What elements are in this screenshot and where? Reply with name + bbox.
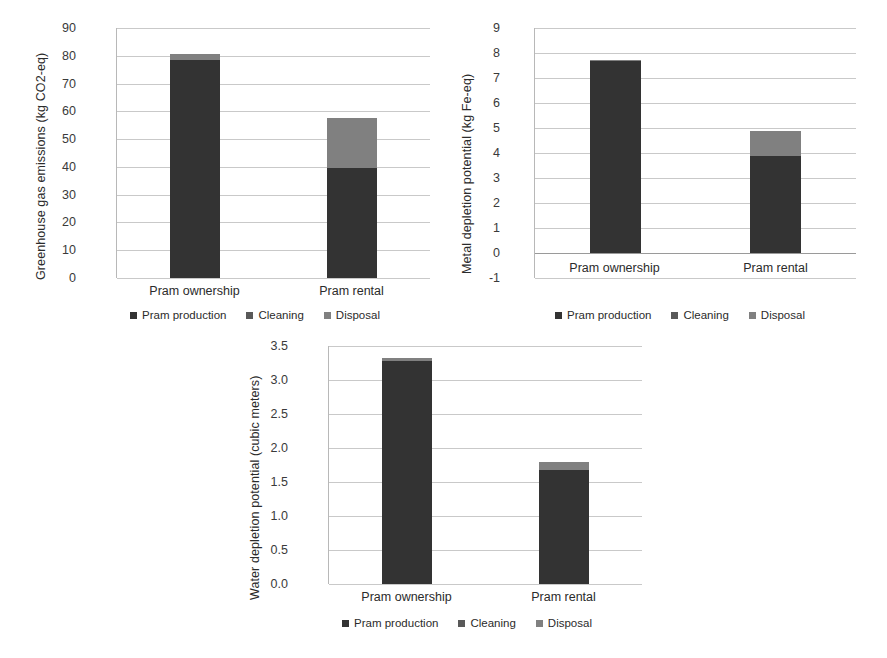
plot-area-ghg: 0102030405060708090 (80, 28, 430, 278)
legend-swatch-icon (749, 312, 756, 319)
legend-label: Pram production (567, 309, 651, 321)
y-tick-label: 0 (69, 271, 76, 285)
legend-item[interactable]: Disposal (536, 617, 592, 629)
legend-item[interactable]: Pram production (342, 617, 438, 629)
x-axis-labels-metal: Pram ownershipPram rental (534, 261, 856, 279)
y-tick-label: 5 (493, 121, 500, 135)
y-tick-label: 8 (493, 46, 500, 60)
legend-label: Cleaning (470, 617, 515, 629)
legend-swatch-icon (246, 312, 253, 319)
bar-rental[interactable] (327, 118, 377, 278)
y-tick-label: 2 (493, 196, 500, 210)
legend-label: Disposal (761, 309, 805, 321)
legend-item[interactable]: Disposal (324, 309, 380, 321)
legend-ghg: Pram productionCleaningDisposal (80, 306, 430, 324)
y-tick-label: 20 (62, 215, 76, 229)
bar-segment[interactable] (539, 462, 589, 469)
legend-water: Pram productionCleaningDisposal (292, 614, 642, 632)
chart-panel-ghg: Greenhouse gas emissions (kg CO2-eq) 010… (20, 12, 440, 327)
grid-and-bars-metal (534, 28, 856, 278)
x-tick-label: Pram ownership (569, 261, 659, 275)
y-tick-label: 1 (493, 221, 500, 235)
legend-label: Disposal (548, 617, 592, 629)
legend-label: Disposal (336, 309, 380, 321)
y-tick-label: 0.0 (271, 577, 288, 591)
bars-metal (535, 28, 856, 278)
bar-rental[interactable] (750, 131, 801, 254)
y-tick-label: 2.5 (271, 407, 288, 421)
legend-metal: Pram productionCleaningDisposal (504, 306, 856, 324)
y-tick-label: 0 (493, 246, 500, 260)
legend-label: Pram production (354, 617, 438, 629)
y-tick-label: 9 (493, 21, 500, 35)
legend-swatch-icon (458, 620, 465, 627)
grid-and-bars-water (328, 346, 642, 584)
legend-item[interactable]: Pram production (130, 309, 226, 321)
legend-swatch-icon (342, 620, 349, 627)
legend-swatch-icon (536, 620, 543, 627)
chart-panel-water: Water depletion potential (cubic meters)… (230, 332, 650, 644)
y-tick-label: 6 (493, 96, 500, 110)
y-tick-label: 0.5 (271, 543, 288, 557)
y-tick-label: 70 (62, 77, 76, 91)
x-tick-label: Pram ownership (149, 284, 239, 298)
grid-and-bars-ghg (116, 28, 430, 278)
bar-segment[interactable] (539, 470, 589, 584)
bars-water (329, 346, 642, 584)
legend-item[interactable]: Disposal (749, 309, 805, 321)
legend-item[interactable]: Cleaning (458, 617, 515, 629)
y-tick-label: 30 (62, 188, 76, 202)
legend-label: Cleaning (258, 309, 303, 321)
legend-swatch-icon (671, 312, 678, 319)
bar-segment[interactable] (750, 131, 801, 156)
x-tick-label: Pram rental (531, 590, 596, 604)
y-tick-label: 3.0 (271, 373, 288, 387)
legend-item[interactable]: Cleaning (671, 309, 728, 321)
bar-ownership[interactable] (382, 358, 432, 584)
y-tick-label: -1 (489, 271, 500, 285)
legend-label: Cleaning (683, 309, 728, 321)
y-tick-label: 90 (62, 21, 76, 35)
y-tick-label: 7 (493, 71, 500, 85)
bar-ownership[interactable] (590, 60, 641, 253)
bar-segment[interactable] (327, 118, 377, 167)
gridline (329, 584, 642, 585)
y-tick-label: 1.5 (271, 475, 288, 489)
bar-segment[interactable] (590, 61, 641, 253)
x-tick-label: Pram rental (319, 284, 384, 298)
chart-panel-metal: Metal depletion potential (kg Fe-eq) -10… (440, 12, 870, 327)
y-tick-label: 3.5 (271, 339, 288, 353)
legend-swatch-icon (130, 312, 137, 319)
legend-label: Pram production (142, 309, 226, 321)
y-tick-label: 50 (62, 132, 76, 146)
plot-area-water: 0.00.51.01.52.02.53.03.5 (292, 346, 642, 584)
legend-swatch-icon (324, 312, 331, 319)
bar-rental[interactable] (539, 462, 589, 584)
y-tick-label: 4 (493, 146, 500, 160)
bar-segment[interactable] (750, 156, 801, 254)
x-axis-labels-ghg: Pram ownershipPram rental (116, 284, 430, 302)
legend-item[interactable]: Pram production (555, 309, 651, 321)
x-tick-label: Pram ownership (361, 590, 451, 604)
y-tick-label: 10 (62, 243, 76, 257)
y-tick-label: 60 (62, 104, 76, 118)
legend-swatch-icon (555, 312, 562, 319)
plot-area-metal: -10123456789 (504, 28, 856, 278)
y-tick-label: 80 (62, 49, 76, 63)
gridline (117, 278, 430, 279)
y-axis-ticks-ghg: 0102030405060708090 (40, 28, 76, 278)
bar-ownership[interactable] (170, 54, 220, 278)
y-tick-label: 2.0 (271, 441, 288, 455)
y-tick-label: 40 (62, 160, 76, 174)
bar-segment[interactable] (170, 60, 220, 278)
bar-segment[interactable] (382, 361, 432, 584)
y-axis-ticks-metal: -10123456789 (470, 28, 500, 278)
x-axis-labels-water: Pram ownershipPram rental (328, 590, 642, 608)
legend-item[interactable]: Cleaning (246, 309, 303, 321)
y-tick-label: 3 (493, 171, 500, 185)
bars-ghg (117, 28, 430, 278)
x-tick-label: Pram rental (743, 261, 808, 275)
y-axis-ticks-water: 0.00.51.01.52.02.53.03.5 (252, 346, 288, 584)
y-tick-label: 1.0 (271, 509, 288, 523)
bar-segment[interactable] (327, 168, 377, 278)
